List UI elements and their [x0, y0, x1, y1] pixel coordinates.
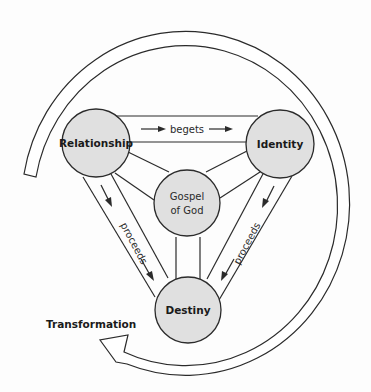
cycle-label-transformation: Transformation: [46, 318, 136, 330]
node-relationship: Relationship: [59, 109, 134, 177]
node-label-destiny: Destiny: [165, 304, 210, 316]
transformation-diagram: begets proceeds proceeds Relationship Id…: [0, 0, 371, 392]
diagram-canvas: begets proceeds proceeds Relationship Id…: [0, 0, 371, 392]
node-gospel-of-god: Gospel of God: [154, 170, 220, 236]
edge-label-begets: begets: [170, 124, 204, 135]
node-destiny: Destiny: [155, 277, 221, 343]
node-label-identity: Identity: [257, 138, 304, 150]
node-identity: Identity: [246, 110, 314, 178]
node-label-gospel-line2: of God: [170, 205, 203, 216]
edge-label-right-proceeds: proceeds: [231, 221, 262, 267]
node-label-relationship: Relationship: [59, 137, 134, 149]
node-label-gospel-line1: Gospel: [170, 191, 204, 202]
